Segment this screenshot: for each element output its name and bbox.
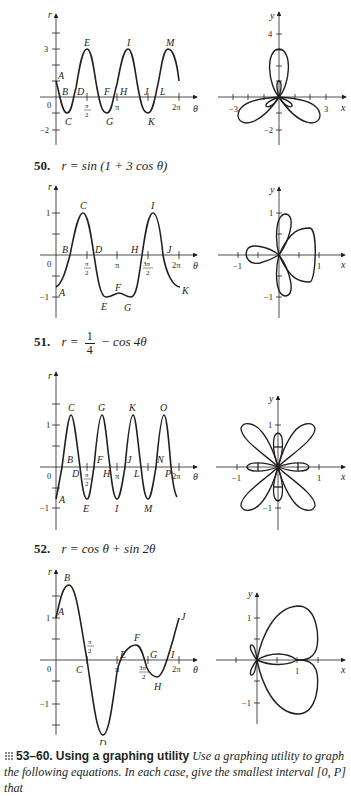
caption-50: 50. r = sin (1 + 3 cos θ)	[34, 158, 167, 174]
point-L: L	[133, 468, 140, 479]
point-K: K	[181, 285, 190, 296]
x-tick-pi: π	[115, 664, 120, 674]
y-axis-label: r	[48, 566, 52, 577]
x-tick-pi: π	[115, 471, 120, 481]
point-C: C	[80, 200, 87, 211]
exercise-range: 53–60.	[16, 749, 53, 763]
point-J: J	[181, 611, 186, 622]
x-tick-pi-over-2-den: 2	[88, 647, 92, 655]
x-axis-label: θ	[193, 471, 198, 482]
point-G: G	[106, 116, 113, 127]
x-tick-2pi: 2π	[172, 471, 181, 481]
x-axis-label: θ	[193, 103, 198, 114]
point-H: H	[102, 468, 111, 479]
exercise-title: Using a graphing utility	[56, 749, 189, 763]
point-E: E	[82, 503, 89, 514]
x-tick-neg1: −1	[232, 473, 241, 483]
point-J: J	[127, 454, 132, 465]
point-O: O	[160, 402, 167, 413]
y-tick-4: 4	[268, 29, 273, 39]
exercise-number: 52.	[34, 541, 50, 556]
x-axis-label: x	[340, 259, 346, 270]
x-tick-pi-over-2-num: π	[85, 102, 89, 110]
exercise-number: 50.	[34, 158, 50, 173]
point-L: L	[159, 86, 166, 97]
equation-rhs: − cos 4θ	[101, 334, 147, 349]
x-tick-3pi-over-2-den: 2	[142, 673, 146, 681]
fraction-numerator: 1	[85, 330, 95, 344]
x-axis-label: θ	[193, 664, 198, 675]
point-D: D	[76, 86, 85, 97]
point-A: A	[58, 287, 66, 298]
fig51-polar	[216, 396, 345, 530]
point-D: D	[94, 244, 103, 255]
point-B: B	[64, 572, 70, 583]
x-tick-neg3: −3	[229, 104, 238, 114]
figures-canvas: r θ 3 −2 0 π 2 π 2π A B C D E F G H I J …	[0, 0, 351, 745]
x-tick-pi-over-2-den: 2	[85, 111, 89, 119]
y-tick-neg1: −1	[40, 292, 49, 302]
x-tick-1: 1	[317, 473, 321, 483]
origin-label: 0	[47, 471, 51, 481]
point-E: E	[119, 649, 126, 660]
y-tick-neg1: −1	[263, 503, 272, 513]
fig49-polar	[218, 12, 346, 145]
point-D: D	[71, 468, 80, 479]
y-tick-neg1: −1	[242, 698, 251, 708]
point-B: B	[62, 86, 68, 97]
y-tick-neg1: −1	[40, 699, 49, 709]
x-tick-3pi-over-2-num: 3π	[139, 664, 147, 672]
point-C: C	[68, 402, 75, 413]
y-axis-label: y	[269, 10, 275, 21]
point-M: M	[165, 37, 175, 48]
caption-52: 52. r = cos θ + sin 2θ	[34, 541, 155, 557]
origin-label: 0	[47, 100, 51, 110]
y-axis-label: r	[48, 370, 52, 381]
point-F: F	[133, 632, 141, 643]
y-tick-1: 1	[46, 613, 50, 623]
x-tick-pi: π	[115, 102, 120, 112]
point-F: F	[114, 282, 122, 293]
point-K: K	[128, 402, 137, 413]
x-tick-pi-over-2-den: 2	[85, 480, 89, 488]
x-tick-2pi: 2π	[172, 102, 181, 112]
y-tick-1: 1	[46, 208, 50, 218]
point-K: K	[147, 116, 156, 127]
graphing-calculator-icon	[4, 751, 13, 760]
point-G: G	[150, 649, 157, 660]
point-B: B	[62, 244, 68, 255]
y-axis-label: r	[48, 181, 52, 192]
x-tick-pi-over-2-den: 2	[85, 269, 89, 277]
exercise-number: 51.	[34, 334, 50, 349]
point-G: G	[124, 302, 131, 313]
fraction: 1 4	[85, 330, 95, 357]
x-axis-label: x	[340, 471, 346, 482]
x-tick-neg1: −1	[233, 261, 242, 271]
origin-label: 0	[47, 664, 51, 674]
fig50-polar	[218, 187, 345, 318]
fig51-cartesian	[40, 372, 197, 530]
equation-lhs: r =	[62, 334, 79, 349]
point-M: M	[143, 503, 153, 514]
fig52-cartesian-labels: r θ 1 −1 0 π 2 π 3π 2 2π A B C D E F G H…	[40, 566, 198, 745]
y-tick-1: 1	[247, 613, 251, 623]
point-F: F	[103, 86, 111, 97]
x-tick-pi-over-2-num: π	[85, 471, 89, 479]
x-axis-label: x	[340, 664, 346, 675]
y-tick-1: 1	[269, 208, 273, 218]
point-A: A	[57, 606, 65, 617]
fig51-cartesian-labels: r θ 1 −1 0 π 2 π 2π A B C D E F G H I J …	[40, 370, 198, 514]
x-tick-2pi: 2π	[172, 664, 181, 674]
y-tick-neg1: −1	[40, 503, 49, 513]
point-F: F	[96, 454, 104, 465]
x-tick-pi-over-2-num: π	[88, 638, 92, 646]
origin-label: 0	[47, 259, 51, 269]
point-I: I	[126, 37, 131, 48]
x-tick-1: 1	[295, 666, 299, 676]
x-tick-3: 3	[324, 104, 328, 114]
point-G: G	[98, 402, 105, 413]
x-tick-pi: π	[115, 260, 120, 270]
y-tick-neg2: −2	[264, 125, 273, 135]
point-I: I	[114, 503, 119, 514]
x-tick-2pi: 2π	[172, 260, 181, 270]
